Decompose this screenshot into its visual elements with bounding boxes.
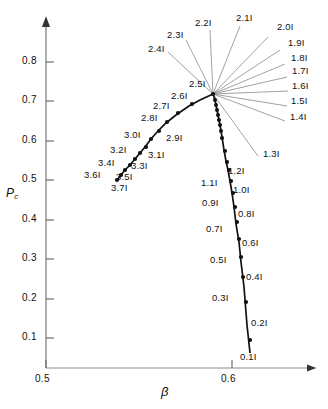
- point-0.7I: [233, 205, 237, 209]
- point-1.1I: [225, 160, 229, 164]
- point-label-0.6I: 0.6I: [242, 238, 259, 248]
- point-label-0.2I: 0.2I: [251, 318, 268, 328]
- point-label-3.4I: 3.4I: [98, 158, 115, 168]
- point-2.7I: [176, 111, 180, 115]
- point-label-3.2I: 3.2I: [110, 145, 127, 155]
- point-1.3I: [220, 136, 224, 140]
- point-label-1.0I: 1.0I: [233, 185, 250, 195]
- fan-ray-2.0I: [213, 37, 268, 94]
- point-label-3.6I: 3.6I: [84, 170, 101, 180]
- point-label-0.3I: 0.3I: [212, 293, 229, 303]
- point-2.8I: [165, 120, 169, 124]
- point-0.1I: [248, 338, 252, 342]
- y-tick-label-0.3: 0.3: [22, 253, 37, 263]
- y-axis-title-main: P: [6, 186, 14, 200]
- point-unlabeled: [219, 129, 223, 133]
- point-label-0.1I: 0.1I: [240, 352, 257, 362]
- point-label-2.9I: 2.9I: [166, 133, 183, 143]
- x-tick-label-0.5: 0.5: [35, 374, 50, 384]
- point-0.4I: [239, 255, 243, 259]
- point-label-0.7I: 0.7I: [206, 224, 223, 234]
- point-label-3.7I: 3.7I: [111, 183, 128, 193]
- point-unlabeled: [215, 108, 219, 112]
- point-label-2.5I: 2.5I: [189, 79, 206, 89]
- fan-label-1.3I: 1.3I: [263, 149, 280, 159]
- x-axis-ticks: [46, 360, 232, 368]
- fan-label-2.0I: 2.0I: [277, 22, 294, 32]
- y-tick-label-0.2: 0.2: [22, 293, 37, 303]
- y-axis-title: Pc: [6, 188, 18, 202]
- axes: [46, 26, 308, 368]
- point-label-3.0I: 3.0I: [124, 130, 141, 140]
- point-label-2.7I: 2.7I: [153, 101, 170, 111]
- fan-label-2.2I: 2.2I: [195, 18, 212, 28]
- fan-label-1.6I: 1.6I: [292, 81, 309, 91]
- point-unlabeled: [216, 113, 220, 117]
- fan-ray-2.2I: [210, 30, 213, 94]
- point-0.6I: [235, 220, 239, 224]
- plot-canvas: [0, 0, 328, 409]
- point-3.2I: [138, 151, 142, 155]
- fan-label-1.4I: 1.4I: [290, 112, 307, 122]
- x-tick-label-0.6: 0.6: [221, 374, 236, 384]
- fan-ray-1.5I: [213, 94, 287, 106]
- y-axis-title-subscript: c: [14, 192, 18, 201]
- point-3.0I: [149, 137, 153, 141]
- fan-label-1.5I: 1.5I: [291, 96, 308, 106]
- fan-ray-1.4I: [213, 94, 285, 121]
- fan-ray-2.1I: [213, 26, 240, 94]
- point-label-2.8I: 2.8I: [141, 113, 158, 123]
- point-label-0.5I: 0.5I: [210, 255, 227, 265]
- y-tick-label-0.4: 0.4: [22, 214, 37, 224]
- y-tick-label-0.6: 0.6: [22, 135, 37, 145]
- point-0.9I: [229, 179, 233, 183]
- point-2.6I: [190, 102, 194, 106]
- point-unlabeled: [213, 98, 217, 102]
- fan-label-2.1I: 2.1I: [236, 13, 253, 23]
- y-tick-label-0.1: 0.1: [22, 332, 37, 342]
- point-label-3.3I: 3.3I: [131, 161, 148, 171]
- fan-label-2.4I: 2.4I: [148, 44, 165, 54]
- fan-label-2.3I: 2.3I: [167, 30, 184, 40]
- x-axis-title: β: [161, 387, 169, 397]
- point-0.3I: [241, 275, 245, 279]
- point-label-3.5I: 3.5I: [116, 172, 133, 182]
- fan-label-1.8I: 1.8I: [291, 53, 308, 63]
- fan-ray-1.9I: [213, 50, 280, 94]
- point-label-0.8I: 0.8I: [238, 209, 255, 219]
- point-unlabeled: [218, 123, 222, 127]
- point-label-0.9I: 0.9I: [202, 198, 219, 208]
- point-0.2I: [244, 300, 248, 304]
- point-2.5I: [211, 92, 215, 96]
- fan-label-1.7I: 1.7I: [292, 66, 309, 76]
- fan-ray-1.8I: [213, 64, 285, 94]
- point-1.2I: [223, 149, 227, 153]
- fan-label-1.9I: 1.9I: [288, 38, 305, 48]
- y-tick-label-0.8: 0.8: [22, 56, 37, 66]
- caption-cutoff-strip: [0, 400, 328, 409]
- y-tick-label-0.5: 0.5: [22, 174, 37, 184]
- point-label-1.2I: 1.2I: [228, 166, 245, 176]
- point-label-2.6I: 2.6I: [171, 91, 188, 101]
- point-2.9I: [157, 129, 161, 133]
- figure-container: 0.8 0.7 0.6 0.5 0.4 0.3 0.2 0.1 0.5 0.6 …: [0, 0, 328, 409]
- point-label-1.1I: 1.1I: [201, 178, 218, 188]
- y-axis-ticks: [46, 62, 54, 338]
- y-tick-label-0.7: 0.7: [22, 95, 37, 105]
- point-unlabeled: [217, 118, 221, 122]
- point-label-3.1I: 3.1I: [148, 150, 165, 160]
- point-unlabeled: [214, 103, 218, 107]
- point-label-0.4I: 0.4I: [246, 272, 263, 282]
- point-0.5I: [237, 237, 241, 241]
